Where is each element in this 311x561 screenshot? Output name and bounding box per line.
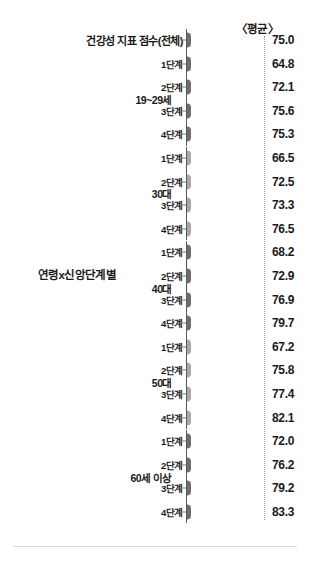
bar[interactable]: [187, 434, 191, 449]
bar-track: [187, 505, 191, 520]
axis-segment: [186, 52, 187, 146]
bar-value-label: 83.3: [272, 505, 294, 519]
bar-track: [187, 292, 191, 307]
bar-value-label: 79.2: [272, 481, 294, 495]
bar-row: 4단계79.7: [0, 311, 311, 335]
bar-row: 4단계82.1: [0, 406, 311, 430]
bar-value-label: 75.8: [272, 363, 294, 377]
bar-row: 4단계75.3: [0, 122, 311, 146]
group-label: 40대: [92, 280, 172, 295]
bar-row: 4단계76.5: [0, 217, 311, 241]
bar-value-label: 68.2: [272, 245, 294, 259]
bar-row: 1단계67.2: [0, 335, 311, 359]
bar-value-label: 72.0: [272, 434, 294, 448]
bar-track: [187, 174, 191, 189]
bar-track: [187, 103, 191, 118]
axis-segment: [186, 241, 187, 335]
bar-value-label: 72.5: [272, 175, 294, 189]
bar-value-label: 75.0: [272, 33, 294, 47]
bar-value-label: 82.1: [272, 411, 294, 425]
bar[interactable]: [187, 410, 191, 425]
bar-track: [187, 269, 191, 284]
bar-value-label: 76.9: [272, 293, 294, 307]
bar[interactable]: [187, 363, 191, 378]
bar-row: 1단계72.0: [0, 429, 311, 453]
bar-value-label: 77.4: [272, 387, 294, 401]
bar-value-label: 72.9: [272, 269, 294, 283]
bar-track: [187, 127, 191, 142]
bar[interactable]: [187, 56, 191, 71]
bar-value-label: 75.3: [272, 127, 294, 141]
bar-value-label: 67.2: [272, 340, 294, 354]
bar-track: [187, 56, 191, 71]
group-label: 19~29세: [72, 92, 172, 107]
axis-segment: [186, 430, 187, 524]
bar-track: [187, 434, 191, 449]
bar-row: 건강성 지표 점수(전체)75.0: [0, 28, 311, 52]
bar-value-label: 75.6: [272, 104, 294, 118]
bottom-divider: [14, 546, 297, 547]
chart-container: 〈평균〉 연령x신앙단계별 건강성 지표 점수(전체)75.01단계64.82단…: [0, 0, 311, 561]
bar-value-label: 64.8: [272, 57, 294, 71]
group-label: 50대: [92, 375, 172, 390]
bar-value-label: 76.5: [272, 222, 294, 236]
bar[interactable]: [187, 245, 191, 260]
bar[interactable]: [187, 174, 191, 189]
bar-track: [187, 363, 191, 378]
bar[interactable]: [187, 481, 191, 496]
bar-track: [187, 221, 191, 236]
bar-row: 4단계83.3: [0, 500, 311, 524]
bar-track: [187, 33, 191, 48]
bar[interactable]: [187, 221, 191, 236]
bar[interactable]: [187, 457, 191, 472]
bar[interactable]: [187, 269, 191, 284]
group-label: 30대: [92, 186, 172, 201]
bar[interactable]: [187, 103, 191, 118]
bar-track: [187, 80, 191, 95]
axis-segment: [186, 335, 187, 429]
bar-track: [187, 387, 191, 402]
bar-value-label: 73.3: [272, 198, 294, 212]
bar-value-label: 66.5: [272, 151, 294, 165]
bar[interactable]: [187, 339, 191, 354]
bar-value-label: 72.1: [272, 80, 294, 94]
bar-track: [187, 316, 191, 331]
bar-category-label: 건강성 지표 점수(전체): [86, 32, 183, 48]
bar-row: 1단계66.5: [0, 146, 311, 170]
axis-segment: [186, 147, 187, 241]
bar-track: [187, 245, 191, 260]
bar[interactable]: [187, 316, 191, 331]
bar-track: [187, 198, 191, 213]
bar[interactable]: [187, 151, 191, 166]
bar[interactable]: [187, 80, 191, 95]
bar[interactable]: [187, 505, 191, 520]
bar[interactable]: [187, 198, 191, 213]
bar[interactable]: [187, 292, 191, 307]
bar-track: [187, 481, 191, 496]
bar-track: [187, 457, 191, 472]
axis-segment: [186, 29, 187, 52]
bar-row: 1단계64.8: [0, 52, 311, 76]
bar-track: [187, 410, 191, 425]
bar-value-label: 79.7: [272, 316, 294, 330]
bar-row: 1단계68.2: [0, 240, 311, 264]
bar-value-label: 76.2: [272, 458, 294, 472]
bar[interactable]: [187, 33, 191, 48]
group-label: 60세 이상: [72, 469, 172, 484]
bar-track: [187, 151, 191, 166]
bar[interactable]: [187, 387, 191, 402]
bar[interactable]: [187, 127, 191, 142]
bar-track: [187, 339, 191, 354]
